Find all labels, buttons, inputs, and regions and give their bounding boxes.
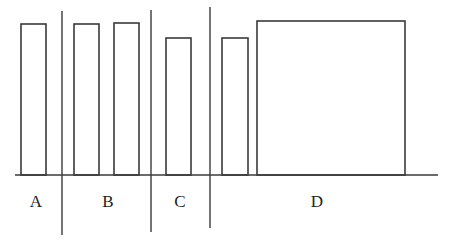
group-label-d: D: [311, 193, 323, 210]
group-label-b: B: [102, 193, 113, 210]
bar-a-1: [21, 24, 46, 175]
bar-d-1: [222, 38, 248, 175]
bar-b-2: [114, 23, 139, 175]
bar-b-1: [74, 24, 99, 175]
group-label-a: A: [30, 193, 42, 210]
bar-c-1: [166, 38, 191, 175]
group-label-c: C: [174, 193, 185, 210]
block-diagram: [0, 0, 450, 244]
bar-group-container: [21, 21, 405, 175]
bar-d-2: [257, 21, 405, 175]
divider-container: [62, 7, 210, 235]
